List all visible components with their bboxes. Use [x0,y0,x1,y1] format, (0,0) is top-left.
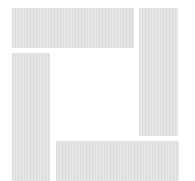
pinwheel-logo [0,0,195,181]
top-bar [12,8,134,48]
right-bar [139,8,178,136]
left-bar [12,53,50,181]
bottom-bar [56,141,179,181]
